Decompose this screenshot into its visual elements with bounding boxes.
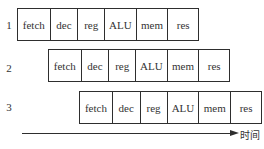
row-label-1: 1 [4,19,14,31]
stage-fetch: fetch [80,92,113,123]
stage-mem: mem [168,50,200,81]
stage-res: res [231,92,261,123]
stage-reg: reg [141,92,168,123]
stage-mem: mem [199,92,231,123]
stage-alu: ALU [168,92,200,123]
stage-reg: reg [109,50,136,81]
stage-dec: dec [113,92,141,123]
stage-res: res [168,9,198,40]
stage-reg: reg [78,9,105,40]
pipeline-row-2: fetch dec reg ALU mem res [48,49,230,82]
stage-fetch: fetch [49,50,82,81]
stage-fetch: fetch [18,9,51,40]
pipeline-row-3: fetch dec reg ALU mem res [79,91,262,124]
time-axis-label: 时间 [240,127,260,142]
row-label-3: 3 [4,101,14,113]
stage-alu: ALU [105,9,137,40]
arrow-right-icon [230,130,239,136]
pipeline-row-1: fetch dec reg ALU mem res [17,8,199,41]
stage-mem: mem [137,9,169,40]
stage-alu: ALU [136,50,168,81]
stage-dec: dec [51,9,79,40]
stage-res: res [199,50,229,81]
row-label-2: 2 [4,62,14,74]
time-axis-line [22,133,232,134]
stage-dec: dec [82,50,110,81]
